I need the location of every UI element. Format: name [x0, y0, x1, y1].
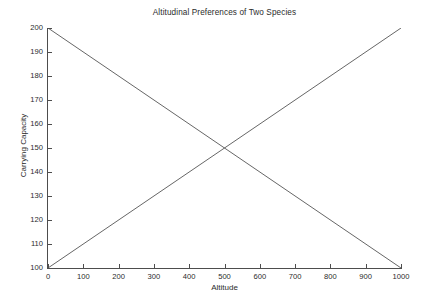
plot-lines-svg — [48, 28, 401, 268]
x-tick-1000 — [401, 264, 402, 268]
x-tick-label-100: 100 — [63, 272, 103, 281]
x-tick-label-700: 700 — [275, 272, 315, 281]
x-tick-label-900: 900 — [346, 272, 386, 281]
x-tick-label-0: 0 — [28, 272, 68, 281]
x-axis-spine — [47, 268, 402, 269]
chart-figure: Altitudinal Preferences of Two Species 0… — [0, 0, 422, 303]
chart-title: Altitudinal Preferences of Two Species — [48, 8, 401, 17]
y-axis-label: Carrying Capacity — [19, 76, 28, 216]
x-tick-label-1000: 1000 — [381, 272, 421, 281]
x-tick-label-400: 400 — [169, 272, 209, 281]
y-tick-label-190: 190 — [0, 47, 43, 56]
y-tick-label-110: 110 — [0, 239, 43, 248]
y-tick-label-200: 200 — [0, 23, 43, 32]
y-tick-label-120: 120 — [0, 215, 43, 224]
y-tick-label-100: 100 — [0, 263, 43, 272]
y-tick-100 — [48, 268, 52, 269]
x-tick-label-300: 300 — [134, 272, 174, 281]
x-axis-label: Altitude — [48, 283, 401, 292]
x-tick-label-500: 500 — [205, 272, 245, 281]
plot-area — [48, 28, 401, 268]
x-tick-label-200: 200 — [99, 272, 139, 281]
x-tick-label-600: 600 — [240, 272, 280, 281]
x-tick-label-800: 800 — [310, 272, 350, 281]
